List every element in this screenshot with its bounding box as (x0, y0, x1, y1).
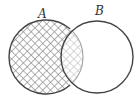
set-b-label: B (94, 4, 104, 18)
venn-diagram: A B (0, 0, 138, 99)
set-a-label: A (37, 7, 47, 21)
